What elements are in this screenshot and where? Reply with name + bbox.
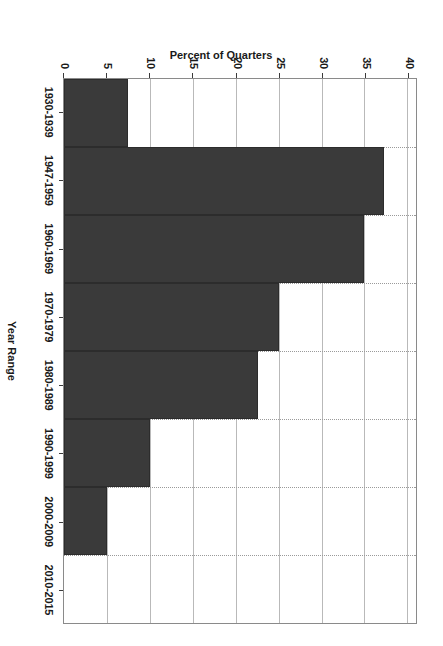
bar-slot <box>64 79 416 147</box>
tick-mark <box>59 249 63 250</box>
value-axis: 0510152025303540 <box>63 0 417 78</box>
bar[interactable] <box>64 351 258 419</box>
value-axis-tick-label: 0 <box>59 63 71 69</box>
bar-slot <box>64 351 416 419</box>
category-axis-tick-label: 1990-1999 <box>43 428 55 479</box>
category-axis-tick-label: 1930-1939 <box>43 87 55 138</box>
tick-mark <box>59 522 63 523</box>
category-axis-tick-label: 2010-2015 <box>43 564 55 615</box>
rotated-figure-stage: 0510152025303540 Percent of Quarters 193… <box>0 0 443 646</box>
value-axis-tick-label: 35 <box>361 57 373 69</box>
value-axis-tick-label: 25 <box>275 57 287 69</box>
bar[interactable] <box>64 283 279 351</box>
bar[interactable] <box>64 487 107 555</box>
tick-mark <box>59 590 63 591</box>
category-axis-tick-label: 2000-2009 <box>43 496 55 547</box>
category-axis-tick-label: 1960-1969 <box>43 223 55 274</box>
category-axis-tick-label: 1947-1959 <box>43 155 55 206</box>
value-axis-tick-label: 5 <box>102 63 114 69</box>
plot-area <box>63 78 417 624</box>
tick-mark <box>59 317 63 318</box>
category-axis-tick-label: 1970-1979 <box>43 291 55 342</box>
bar-slot <box>64 419 416 487</box>
tick-mark <box>59 385 63 386</box>
bar-slot <box>64 147 416 215</box>
value-axis-tick-label: 30 <box>318 57 330 69</box>
bar[interactable] <box>64 147 384 215</box>
value-axis-tick-label: 40 <box>404 57 416 69</box>
tick-mark <box>59 453 63 454</box>
bar[interactable] <box>64 215 364 283</box>
bar-slot <box>64 283 416 351</box>
category-axis-title: Year Range <box>6 78 18 624</box>
bar-chart-figure: 0510152025303540 Percent of Quarters 193… <box>0 0 443 646</box>
bar[interactable] <box>64 79 128 147</box>
bar-series <box>64 79 416 623</box>
bar[interactable] <box>64 419 150 487</box>
tick-mark <box>59 180 63 181</box>
category-axis-tick-label: 1980-1989 <box>43 360 55 411</box>
tick-mark <box>59 112 63 113</box>
bar-slot <box>64 487 416 555</box>
bar-slot <box>64 555 416 623</box>
value-axis-title: Percent of Quarters <box>170 49 273 61</box>
value-axis-tick-label: 10 <box>145 57 157 69</box>
bar-slot <box>64 215 416 283</box>
